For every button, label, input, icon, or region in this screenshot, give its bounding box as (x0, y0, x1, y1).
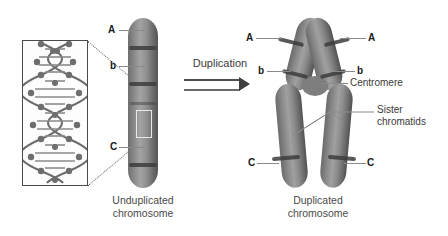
leader-gene-b-left-chromatid (267, 71, 291, 72)
label-gene-a-right-chromatid: A (368, 33, 375, 43)
label-gene-b-left-chromatid: b (258, 66, 264, 76)
unduplicated-chromosome (126, 18, 160, 188)
band-b (129, 82, 157, 86)
leader-gene-a-right-chromatid (340, 38, 366, 39)
leader-gene-a-left-panel (119, 30, 145, 31)
leader-sister-chromatids (290, 108, 374, 144)
leader-gene-a-left-chromatid (256, 38, 282, 39)
leader-gene-b-left-panel (119, 66, 145, 67)
dna-double-helix-icon (23, 41, 87, 185)
duplication-arrow-head-icon (239, 77, 250, 91)
duplication-arrow-label: Duplication (180, 57, 260, 69)
band-a (129, 46, 157, 50)
centromere-junction (302, 76, 328, 96)
leader-centromere (322, 83, 348, 84)
label-gene-b-right-chromatid: b (357, 66, 363, 76)
leader-gene-c-left-panel (119, 147, 145, 148)
band-c (129, 163, 157, 167)
caption-duplicated: Duplicated chromosome (258, 194, 378, 220)
label-gene-c-right-chromatid: C (367, 158, 374, 168)
leader-gene-b-right-chromatid (333, 71, 355, 72)
duplication-arrow-shaft-top (184, 79, 240, 81)
duplication-arrow-shaft-bottom (184, 89, 240, 91)
label-gene-c-left-panel: C (110, 142, 117, 152)
label-gene-b-left-panel: b (110, 61, 116, 71)
label-gene-a-left-panel: A (108, 25, 115, 35)
label-sister-chromatids: Sister chromatids (377, 104, 447, 128)
leader-gene-c-right-chromatid (344, 163, 366, 164)
label-gene-a-left-chromatid: A (246, 33, 253, 43)
figure-canvas: A b C Unduplicated chromosome Duplicatio… (0, 0, 448, 236)
label-centromere: Centromere (350, 77, 430, 89)
leader-gene-c-left-chromatid (257, 163, 279, 164)
caption-unduplicated: Unduplicated chromosome (83, 194, 203, 220)
label-gene-c-left-chromatid: C (248, 158, 255, 168)
dna-zoom-highlight (136, 110, 152, 138)
dna-inset-box (22, 40, 88, 186)
band-minor (130, 102, 156, 105)
